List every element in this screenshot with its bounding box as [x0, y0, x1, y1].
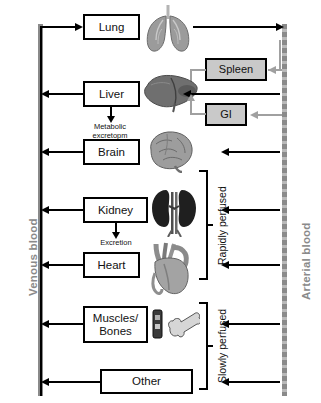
- other-inflow-line: [228, 381, 280, 383]
- spleen-inflow-drop: [279, 40, 281, 70]
- venous-blood-label: Venous blood: [27, 218, 39, 296]
- lung-inflow-horizontal: [40, 26, 76, 28]
- compartment-muscles-bones[interactable]: Muscles/ Bones: [83, 306, 148, 343]
- heart-outflow-line: [48, 264, 84, 266]
- pbpk-diagram: Venous blood Arterial blood Lung Spleen …: [0, 0, 321, 403]
- heart-outflow-arrowhead: [41, 261, 49, 269]
- muscles-outflow-arrowhead: [41, 320, 49, 328]
- compartment-muscles-bones-label-line2: Bones: [99, 325, 132, 338]
- compartment-heart[interactable]: Heart: [83, 252, 140, 278]
- muscles-outflow-line: [48, 323, 84, 325]
- brain-inflow-line: [228, 151, 280, 153]
- lung-outflow-arrowhead: [276, 23, 284, 31]
- compartment-kidney[interactable]: Kidney: [83, 197, 148, 223]
- compartment-other[interactable]: Other: [100, 369, 193, 394]
- slowly-perfused-brace-tick: [206, 345, 213, 347]
- compartment-liver[interactable]: Liver: [83, 81, 140, 107]
- slowly-perfused-label: Slowly perfused: [216, 309, 228, 383]
- rapidly-perfused-label: Rapidly perfused: [216, 186, 228, 265]
- brain-outflow-arrowhead: [41, 148, 49, 156]
- lung-outflow-line: [193, 26, 278, 28]
- gi-inflow-arrowhead: [250, 111, 258, 119]
- arterial-blood-label: Arterial blood: [300, 222, 312, 300]
- arterial-blood-vessel: [282, 24, 287, 396]
- gi-to-liver-arrowhead: [187, 94, 195, 101]
- muscles-inflow-line: [228, 323, 280, 325]
- brain-icon: [141, 128, 197, 173]
- kidney-outflow-line: [48, 209, 84, 211]
- spleen-to-liver-horizontal: [190, 69, 206, 71]
- gi-to-liver-horizontal: [190, 113, 206, 115]
- bone-icon: [150, 308, 200, 341]
- gi-inflow-line: [258, 114, 282, 116]
- liver-elimination-label: Metabolic excretopm: [79, 122, 141, 140]
- other-outflow-arrowhead: [41, 378, 49, 386]
- lung-inflow-arrowhead: [75, 23, 83, 31]
- brain-outflow-line: [48, 151, 84, 153]
- other-outflow-line: [48, 381, 101, 383]
- kidney-outflow-arrowhead: [41, 206, 49, 214]
- spleen-inflow-feed: [268, 69, 282, 71]
- liver-inflow-line: [190, 93, 280, 95]
- liver-outflow-arrowhead: [41, 90, 49, 98]
- kidney-inflow-line: [228, 209, 280, 211]
- heart-icon: [142, 240, 197, 297]
- heart-inflow-line: [228, 264, 280, 266]
- compartment-brain[interactable]: Brain: [83, 139, 140, 165]
- kidneys-icon: [148, 182, 200, 237]
- liver-outflow-line: [48, 93, 84, 95]
- kidney-elimination-label: Excretion: [85, 238, 147, 247]
- compartment-lung[interactable]: Lung: [83, 14, 140, 40]
- compartment-spleen[interactable]: Spleen: [205, 58, 267, 81]
- brain-inflow-arrowhead: [221, 148, 229, 156]
- rapidly-perfused-brace-tick: [206, 224, 213, 226]
- compartment-gi[interactable]: GI: [205, 103, 247, 126]
- lungs-icon: [142, 4, 194, 53]
- compartment-muscles-bones-label-line1: Muscles/: [93, 312, 138, 325]
